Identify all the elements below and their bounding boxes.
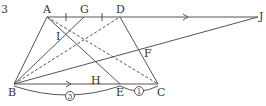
segment-DC — [120, 17, 158, 84]
segment-AE — [47, 17, 120, 84]
diagonal-BD — [14, 17, 120, 84]
point-label-F: F — [144, 47, 152, 60]
point-label-E: E — [116, 86, 124, 99]
point-label-B: B — [8, 86, 16, 99]
point-label-A: A — [42, 3, 52, 16]
ratio-label-BE: 3 — [68, 92, 73, 101]
point-label-C: C — [157, 86, 165, 99]
point-label-H: H — [91, 74, 101, 87]
point-label-D: D — [116, 3, 125, 16]
ratio-label-EC: 1 — [137, 87, 142, 96]
geometry-figure: 3 A G D J I F H B E C 3 1 — [0, 0, 266, 106]
segment-BJ — [14, 17, 258, 84]
point-label-J: J — [258, 10, 263, 23]
segment-AB — [14, 17, 47, 84]
point-label-G: G — [80, 3, 89, 16]
diagonal-AC — [47, 17, 158, 84]
point-label-I: I — [56, 30, 60, 43]
figure-label: 3 — [1, 3, 8, 16]
